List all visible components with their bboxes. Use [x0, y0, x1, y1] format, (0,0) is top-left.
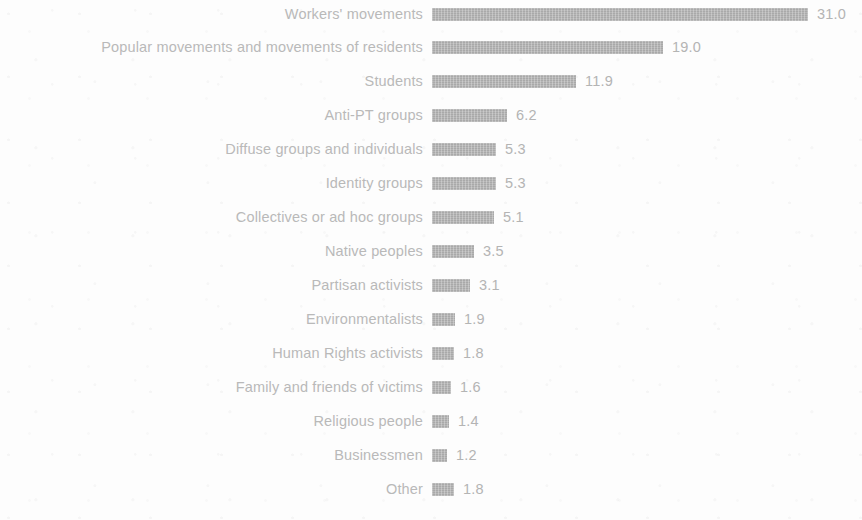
value-label: 3.5 — [483, 243, 504, 260]
bar — [432, 109, 507, 122]
value-label: 1.8 — [463, 481, 484, 498]
chart-row: Workers' movements 31.0 — [0, 1, 862, 27]
value-label: 1.4 — [458, 413, 479, 430]
category-label: Collectives or ad hoc groups — [0, 209, 423, 226]
value-label: 19.0 — [672, 39, 701, 56]
bar — [432, 177, 496, 190]
chart-row: Native peoples 3.5 — [0, 238, 862, 264]
bar — [432, 143, 496, 156]
category-label: Anti-PT groups — [0, 107, 423, 124]
bar-zone: 3.1 — [432, 272, 862, 298]
bar — [432, 279, 470, 292]
chart-row: Diffuse groups and individuals 5.3 — [0, 136, 862, 162]
value-label: 11.9 — [585, 73, 613, 90]
bar — [432, 313, 455, 326]
category-label: Partisan activists — [0, 277, 423, 294]
category-label: Native peoples — [0, 243, 423, 260]
bar — [432, 483, 454, 496]
category-label: Businessmen — [0, 447, 423, 464]
bar — [432, 41, 663, 54]
bar-zone: 31.0 — [432, 1, 862, 27]
category-label: Students — [0, 73, 423, 90]
chart-row: Human Rights activists 1.8 — [0, 340, 862, 366]
chart-row: Students 11.9 — [0, 68, 862, 94]
bar — [432, 347, 454, 360]
value-label: 3.1 — [479, 277, 500, 294]
chart-row: Anti-PT groups 6.2 — [0, 102, 862, 128]
value-label: 31.0 — [817, 6, 846, 23]
category-label: Other — [0, 481, 423, 498]
bar-zone: 11.9 — [432, 68, 862, 94]
chart-row: Businessmen 1.2 — [0, 442, 862, 468]
chart-row: Partisan activists 3.1 — [0, 272, 862, 298]
bar-zone: 1.9 — [432, 306, 862, 332]
value-label: 6.2 — [516, 107, 537, 124]
category-label: Religious people — [0, 413, 423, 430]
category-label: Diffuse groups and individuals — [0, 141, 423, 158]
value-label: 1.2 — [456, 447, 477, 464]
value-label: 1.9 — [464, 311, 485, 328]
value-label: 5.3 — [505, 175, 526, 192]
bar-zone: 3.5 — [432, 238, 862, 264]
category-label: Workers' movements — [0, 6, 423, 23]
bar-zone: 5.3 — [432, 170, 862, 196]
bar — [432, 449, 447, 462]
chart-row: Other 1.8 — [0, 476, 862, 502]
bar-zone: 1.8 — [432, 340, 862, 366]
bar-zone: 6.2 — [432, 102, 862, 128]
chart-row: Popular movements and movements of resid… — [0, 34, 862, 60]
bar-zone: 5.3 — [432, 136, 862, 162]
value-label: 5.3 — [505, 141, 526, 158]
category-label: Identity groups — [0, 175, 423, 192]
value-label: 5.1 — [503, 209, 524, 226]
category-label: Popular movements and movements of resid… — [0, 39, 423, 56]
bar — [432, 8, 808, 21]
chart-row: Collectives or ad hoc groups 5.1 — [0, 204, 862, 230]
bar — [432, 415, 449, 428]
category-label: Family and friends of victims — [0, 379, 423, 396]
value-label: 1.8 — [463, 345, 484, 362]
bar-zone: 1.6 — [432, 374, 862, 400]
chart-row: Environmentalists 1.9 — [0, 306, 862, 332]
chart-row: Family and friends of victims 1.6 — [0, 374, 862, 400]
bar-zone: 1.2 — [432, 442, 862, 468]
bar-zone: 1.8 — [432, 476, 862, 502]
bar — [432, 381, 451, 394]
bar-zone: 1.4 — [432, 408, 862, 434]
chart-row: Religious people 1.4 — [0, 408, 862, 434]
horizontal-bar-chart: Workers' movements 31.0 Popular movement… — [0, 0, 862, 520]
bar — [432, 211, 494, 224]
chart-row: Identity groups 5.3 — [0, 170, 862, 196]
bar — [432, 245, 474, 258]
category-label: Human Rights activists — [0, 345, 423, 362]
category-label: Environmentalists — [0, 311, 423, 328]
bar-zone: 19.0 — [432, 34, 862, 60]
bar-zone: 5.1 — [432, 204, 862, 230]
bar — [432, 75, 576, 88]
value-label: 1.6 — [460, 379, 481, 396]
